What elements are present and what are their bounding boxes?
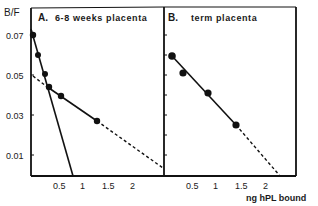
y-axis-label: B/F [4,7,20,18]
fit-line [172,56,236,125]
y-tick-0.05: 0.05 [6,71,24,81]
x-tick-b-1.5: 1.5 [235,181,248,191]
shallow-line [46,86,97,121]
x-tick-b-0.5: 0.5 [186,181,199,191]
x-tick-a-1.5: 1.5 [102,181,115,191]
x-axis-label: ng hPL bound [246,193,306,203]
dashed-extrapolation [236,125,280,176]
panel-a-letter: A. [38,12,48,23]
x-tick-a-1: 1 [80,181,85,191]
panel-b-lines [172,56,280,176]
y-tick-0.03: 0.03 [6,111,24,121]
panel-b-letter: B. [168,12,178,23]
axes-frame [31,7,296,176]
dashed-lower [97,121,163,168]
scatchard-figure: B/F 0.07 0.05 0.03 0.01 A. 6-8 weeks pla… [0,0,318,206]
panel-a-title: 6-8 weeks placenta [55,13,148,23]
panel-a-lines [31,29,163,176]
panel-a-points [30,32,100,124]
y-tick-0.07: 0.07 [6,31,24,41]
steep-line [31,29,73,176]
y-tick-0.01: 0.01 [6,151,24,161]
panel-b-title: term placenta [191,13,258,23]
x-tick-a-0.5: 0.5 [53,181,66,191]
x-tick-b-1: 1 [213,181,218,191]
x-tick-b-2: 2 [263,181,268,191]
x-tick-a-2: 2 [130,181,135,191]
